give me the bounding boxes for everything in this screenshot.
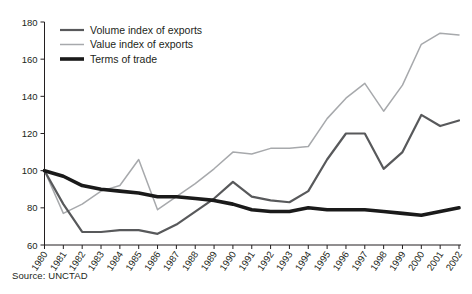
x-axis-tick-label: 1990 <box>217 249 238 273</box>
chart-figure: 6080100120140160180198019811982198319841… <box>0 0 472 294</box>
y-axis-tick-label: 160 <box>22 54 38 65</box>
y-axis-tick-label: 140 <box>22 91 38 102</box>
x-axis-tick-label: 1992 <box>255 249 276 273</box>
x-axis-tick-label: 2001 <box>424 249 445 273</box>
series-line-volume-index-of-exports <box>45 115 460 234</box>
x-axis-tick-label: 1987 <box>161 249 182 273</box>
x-axis-tick-label: 1996 <box>330 249 351 273</box>
legend-label-value-index-of-exports: Value index of exports <box>90 38 193 50</box>
legend-label-volume-index-of-exports: Volume index of exports <box>90 24 202 36</box>
y-axis-tick-label: 100 <box>22 165 38 176</box>
x-axis-tick-label: 1994 <box>292 249 313 273</box>
x-axis-tick-label: 1995 <box>311 249 332 273</box>
source-caption: Source: UNCTAD <box>12 270 88 281</box>
x-axis-tick-label: 1986 <box>142 249 163 273</box>
x-axis-tick-label: 1991 <box>236 249 257 273</box>
y-axis-tick-label: 180 <box>22 17 38 28</box>
x-axis-tick-label: 1993 <box>274 249 295 273</box>
x-axis-tick-label: 1983 <box>85 249 106 273</box>
exports-index-line-chart: 6080100120140160180198019811982198319841… <box>0 0 472 294</box>
y-axis-tick-label: 80 <box>27 202 38 213</box>
y-axis-tick-label: 120 <box>22 128 38 139</box>
x-axis-tick-label: 1985 <box>123 249 144 273</box>
x-axis-tick-label: 1997 <box>349 249 370 273</box>
x-axis-tick-label: 1999 <box>387 249 408 273</box>
y-axis-tick-label: 60 <box>27 240 38 251</box>
x-axis-tick-label: 2000 <box>406 249 427 273</box>
x-axis-tick-label: 2002 <box>443 249 464 273</box>
x-axis-tick-label: 1998 <box>368 249 389 273</box>
legend-label-terms-of-trade: Terms of trade <box>90 53 157 65</box>
x-axis-tick-label: 1988 <box>179 249 200 273</box>
x-axis-tick-label: 1984 <box>104 249 125 273</box>
x-axis-tick-label: 1989 <box>198 249 219 273</box>
series-line-terms-of-trade <box>45 171 460 216</box>
